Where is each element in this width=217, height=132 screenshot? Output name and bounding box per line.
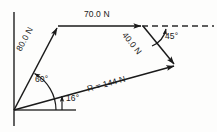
label-angle-45: 45°	[165, 31, 178, 41]
force-vector-diagram: 70.0 N 80.0 N 40.0 N R = 144 N 60° 16° 4…	[0, 0, 217, 132]
angle-arc-45	[152, 29, 166, 46]
label-angle-60: 60°	[35, 74, 48, 84]
vector-diagram-canvas	[0, 0, 217, 132]
label-angle-16: 16°	[66, 93, 79, 103]
label-force-70n: 70.0 N	[84, 9, 110, 19]
